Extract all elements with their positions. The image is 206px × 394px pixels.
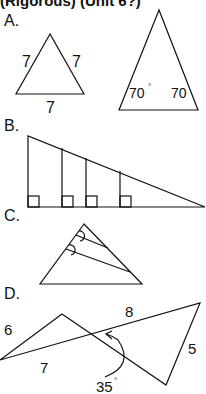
side-label: 7 <box>22 53 31 70</box>
right-angle-marker <box>86 196 97 207</box>
angle-arrow-arc <box>105 334 124 377</box>
segment-label: 6 <box>4 321 12 338</box>
side-label: 7 <box>46 99 55 116</box>
segment-label: 7 <box>40 359 48 376</box>
segment-label: 8 <box>125 303 133 320</box>
angle-label: 70 <box>129 85 145 101</box>
degree-symbol: ° <box>148 82 151 91</box>
right-angle-marker <box>28 196 39 207</box>
side-label: 7 <box>72 53 81 70</box>
parallel-line-2 <box>66 249 130 272</box>
right-angle-marker <box>62 196 73 207</box>
triangle-b <box>28 136 205 207</box>
right-angle-marker <box>120 196 131 207</box>
triangle-c <box>40 224 142 284</box>
geometry-figure: 7 7 7 70 ° 70 6 7 8 5 35 ° <box>0 0 206 394</box>
angle-label: 70 <box>171 85 187 101</box>
degree-symbol: ° <box>114 376 117 385</box>
figure-d <box>0 303 200 385</box>
angle-label: 35 <box>96 378 113 394</box>
parallel-line-1 <box>76 235 108 248</box>
segment-label: 5 <box>188 340 196 357</box>
